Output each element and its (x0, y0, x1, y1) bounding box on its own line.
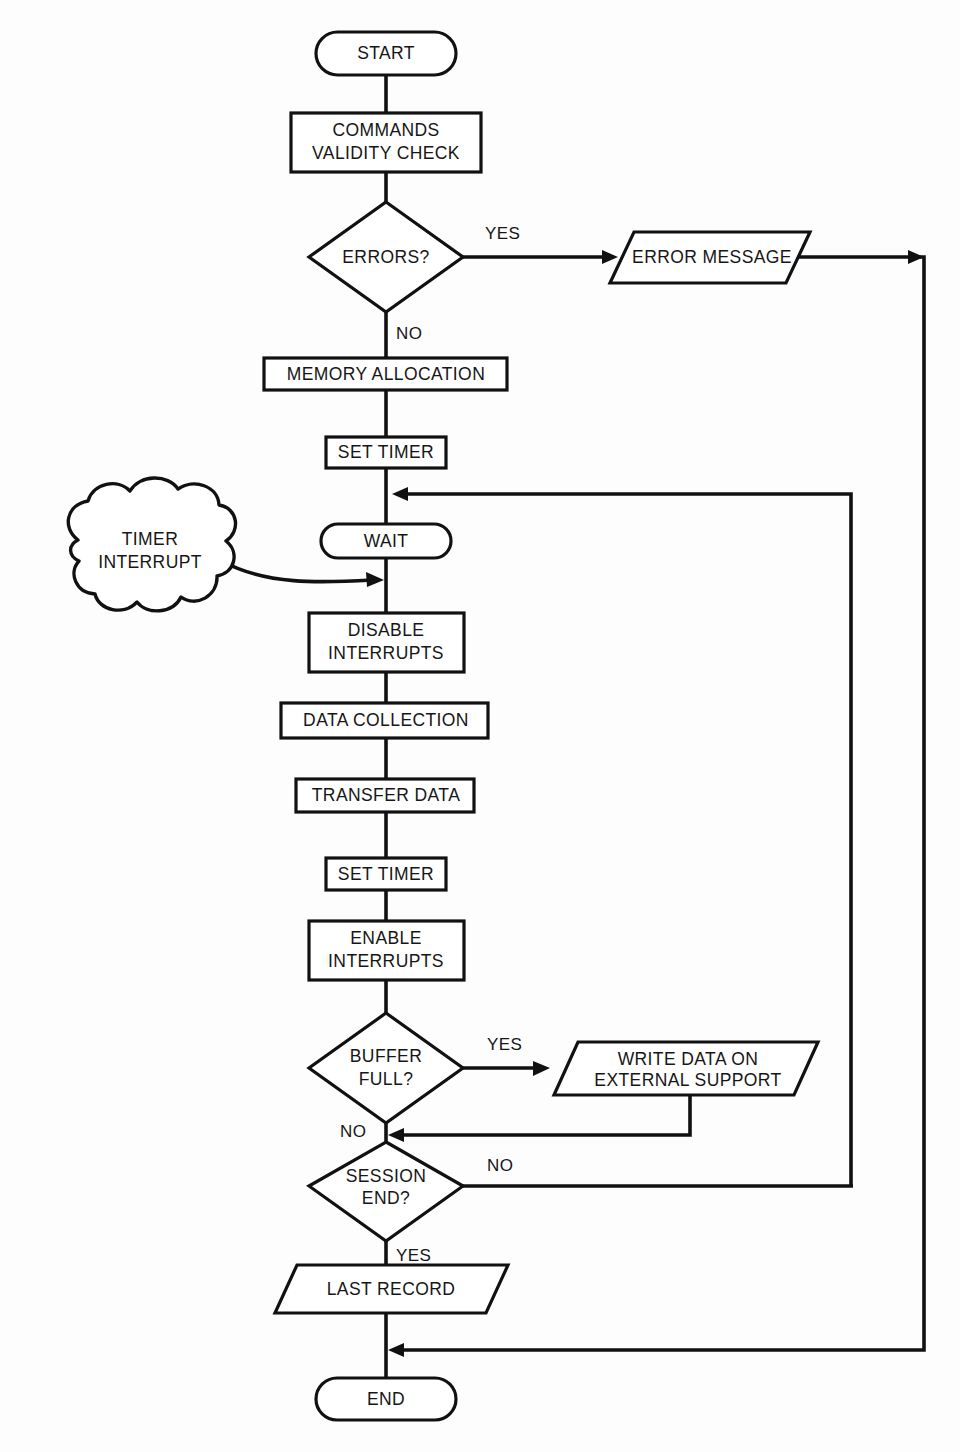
arrowhead-timer-interrupt (366, 572, 384, 587)
buffer-full-label-line1: BUFFER (350, 1046, 422, 1066)
node-session-end[interactable]: SESSION END? (309, 1142, 463, 1241)
node-set-timer-1[interactable]: SET TIMER (326, 437, 446, 468)
node-write-data[interactable]: WRITE DATA ON EXTERNAL SUPPORT (554, 1042, 818, 1095)
disable-interrupts-label-line2: INTERRUPTS (328, 643, 444, 663)
set-timer-2-label: SET TIMER (338, 864, 434, 884)
edge-timer-interrupt (222, 561, 372, 582)
errors-label: ERRORS? (342, 247, 429, 267)
edge-label-session-yes: YES (396, 1246, 431, 1265)
node-wait[interactable]: WAIT (321, 524, 451, 558)
timer-interrupt-label-line1: TIMER (122, 529, 178, 549)
session-end-label-line2: END? (362, 1188, 410, 1208)
session-end-label-line1: SESSION (346, 1166, 427, 1186)
commands-validity-check-label-line2: VALIDITY CHECK (312, 143, 460, 163)
node-commands-validity-check[interactable]: COMMANDS VALIDITY CHECK (291, 113, 481, 172)
enable-interrupts-label-line2: INTERRUPTS (328, 951, 444, 971)
memory-allocation-label: MEMORY ALLOCATION (287, 364, 485, 384)
buffer-full-label-line2: FULL? (359, 1069, 414, 1089)
edge-write-data-return (394, 1095, 690, 1135)
node-data-collection[interactable]: DATA COLLECTION (281, 703, 488, 738)
enable-interrupts-label-line1: ENABLE (350, 928, 421, 948)
last-record-label: LAST RECORD (327, 1279, 456, 1299)
start-label: START (357, 43, 415, 63)
node-error-message[interactable]: ERROR MESSAGE (610, 232, 810, 283)
arrowhead-error-top (908, 250, 924, 264)
node-set-timer-2[interactable]: SET TIMER (326, 858, 446, 890)
arrowhead-buffer-yes (533, 1061, 550, 1076)
set-timer-1-label: SET TIMER (338, 442, 434, 462)
node-end[interactable]: END (316, 1378, 456, 1420)
flowchart-canvas: START COMMANDS VALIDITY CHECK ERRORS? YE… (0, 0, 960, 1452)
node-memory-allocation[interactable]: MEMORY ALLOCATION (264, 358, 507, 390)
transfer-data-label: TRANSFER DATA (312, 785, 460, 805)
node-start[interactable]: START (316, 32, 456, 75)
edge-label-buffer-no: NO (340, 1122, 366, 1141)
edge-label-session-no: NO (487, 1156, 513, 1175)
node-transfer-data[interactable]: TRANSFER DATA (296, 779, 474, 812)
node-disable-interrupts[interactable]: DISABLE INTERRUPTS (309, 613, 464, 672)
arrowhead-session-loop (392, 487, 408, 501)
node-last-record[interactable]: LAST RECORD (275, 1265, 508, 1313)
arrowhead-write-return (388, 1128, 404, 1142)
arrowhead-errors-yes (602, 250, 618, 264)
data-collection-label: DATA COLLECTION (303, 710, 469, 730)
write-data-label-line2: EXTERNAL SUPPORT (594, 1070, 781, 1090)
node-timer-interrupt[interactable]: TIMER INTERRUPT (68, 478, 235, 611)
edge-label-buffer-yes: YES (487, 1035, 522, 1054)
arrowhead-error-to-end (388, 1343, 404, 1357)
node-buffer-full[interactable]: BUFFER FULL? (309, 1013, 463, 1123)
edge-label-errors-no: NO (396, 324, 422, 343)
end-label: END (367, 1389, 405, 1409)
disable-interrupts-label-line1: DISABLE (348, 620, 425, 640)
node-errors[interactable]: ERRORS? (309, 202, 463, 312)
edge-label-errors-yes: YES (485, 224, 520, 243)
wait-label: WAIT (364, 531, 409, 551)
error-message-label: ERROR MESSAGE (632, 247, 792, 267)
timer-interrupt-label-line2: INTERRUPT (98, 552, 202, 572)
flowchart-svg: START COMMANDS VALIDITY CHECK ERRORS? YE… (0, 0, 960, 1452)
commands-validity-check-label-line1: COMMANDS (332, 120, 439, 140)
node-enable-interrupts[interactable]: ENABLE INTERRUPTS (309, 921, 464, 980)
write-data-label-line1: WRITE DATA ON (618, 1049, 759, 1069)
